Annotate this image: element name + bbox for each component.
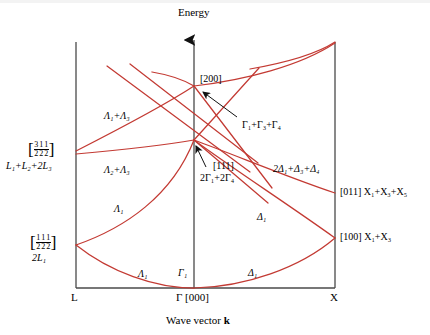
label-L-lower-terms: 2L₁	[32, 252, 46, 263]
band-second-L	[76, 140, 194, 245]
label-gamma-top-terms: Γ₁+Γ₃+Γ₄	[242, 119, 281, 130]
x-tick-left: L	[71, 291, 78, 303]
label-delta-terms: 2Δ₁+Δ₃+Δ₄	[273, 163, 320, 174]
label-L-lower-bracket: [121212]	[30, 234, 56, 251]
bracket-close-lower: ]	[51, 236, 57, 249]
band-lowest-L	[76, 245, 194, 288]
label-lambda-1-lower: Λ₁	[138, 268, 148, 279]
x-tick-center: Γ [000]	[176, 291, 209, 303]
label-200-bracket: [200]	[200, 73, 222, 84]
label-lambda-1-3: Λ₁+Λ₃	[104, 110, 130, 121]
label-delta-1-upper: Δ₁	[257, 211, 266, 222]
gamma-top-terms-text: Γ₁+Γ₃+Γ₄	[242, 119, 281, 130]
label-X-lower: [100] X₁+X₃	[340, 231, 391, 242]
x-axis-title: Wave vector k	[166, 314, 230, 326]
band-left-top-to-200	[152, 72, 194, 86]
X-lower-text: [100] X₁+X₃	[340, 231, 391, 242]
x-tick-right: X	[330, 291, 338, 303]
label-L-upper-terms: L₁+L₂+2L₃	[6, 160, 52, 171]
label-gamma-1-bottom: Γ₁	[178, 267, 187, 278]
label-lambda-2-3: Λ₂+Λ₃	[104, 164, 130, 175]
x-axis-title-prefix: Wave vector	[166, 314, 224, 326]
y-axis-title: Energy	[178, 6, 210, 18]
band-right-top-curve	[250, 42, 335, 69]
gamma-center-terms-text: 2Γ₁+2Γ₄	[200, 172, 234, 183]
label-X-upper: [011] X₁+X₃+X₅	[340, 186, 407, 197]
label-L-upper-bracket: [321212]	[28, 141, 54, 158]
fraction-group-upper: 321212	[34, 141, 49, 158]
band-upper-rise-L	[76, 86, 194, 151]
band-second-X	[194, 140, 335, 238]
label-lambda-1-upper: Λ₁	[114, 203, 124, 214]
band-structure-figure: Energy Wave vector k L Γ [000] X [200] Γ…	[0, 0, 430, 335]
fraction-group-lower: 121212	[36, 234, 51, 251]
label-111-bracket: [111]	[213, 160, 234, 171]
x-axis-title-symbol: k	[224, 314, 230, 326]
label-gamma-center-terms: 2Γ₁+2Γ₄	[200, 172, 234, 183]
X-upper-text: [011] X₁+X₃+X₅	[340, 186, 407, 197]
band-lowest-X	[194, 238, 335, 288]
label-delta-1-lower: Δ₁	[248, 267, 257, 278]
bracket-close: ]	[49, 143, 55, 156]
